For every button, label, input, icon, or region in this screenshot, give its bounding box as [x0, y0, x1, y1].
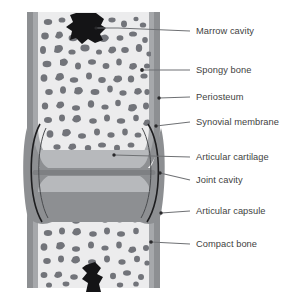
callout-joint-cavity: Joint cavity [158, 171, 243, 185]
leader-line-synovial-membrane [156, 122, 190, 126]
anchor-dot-spongy-bone [140, 68, 144, 72]
anchor-dot-synovial-membrane [154, 124, 157, 127]
callout-periosteum: Periosteum [157, 92, 243, 102]
leader-line-articular-capsule [161, 211, 190, 213]
callout-articular-capsule: Articular capsule [159, 206, 265, 216]
joint-cavity [33, 170, 156, 175]
label-articular-capsule: Articular capsule [196, 206, 266, 216]
label-spongy-bone: Spongy bone [196, 65, 251, 75]
upper-bone [27, 12, 160, 170]
anchor-dot-articular-capsule [159, 211, 162, 214]
label-joint-cavity: Joint cavity [196, 175, 243, 185]
anatomy-diagram: Marrow cavitySpongy bonePeriosteumSynovi… [0, 0, 298, 294]
articular-cartilage-upper [40, 150, 148, 168]
label-marrow-cavity: Marrow cavity [196, 26, 254, 36]
label-periosteum: Periosteum [196, 92, 244, 102]
synovial-joint-illustration: Marrow cavitySpongy bonePeriosteumSynovi… [0, 0, 298, 294]
label-articular-cartilage: Articular cartilage [196, 152, 269, 162]
leader-line-periosteum [159, 97, 190, 98]
anchor-dot-joint-cavity [158, 171, 161, 174]
callout-synovial-membrane: Synovial membrane [154, 117, 279, 128]
callout-compact-bone: Compact bone [149, 239, 257, 249]
label-synovial-membrane: Synovial membrane [196, 117, 279, 127]
anchor-dot-marrow-cavity [94, 26, 97, 29]
articular-cartilage-lower [38, 176, 150, 192]
anchor-dot-compact-bone [149, 240, 153, 244]
label-compact-bone: Compact bone [196, 239, 257, 249]
anchor-dot-articular-cartilage [112, 153, 115, 156]
anchor-dot-periosteum [157, 96, 160, 99]
